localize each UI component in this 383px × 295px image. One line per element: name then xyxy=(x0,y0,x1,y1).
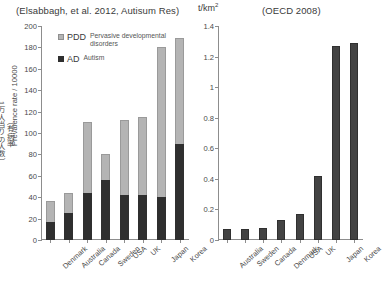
legend-swatch-ad-icon xyxy=(58,56,64,62)
bar-segment-ad xyxy=(120,195,129,240)
bar-segment-ad xyxy=(157,197,166,240)
bar xyxy=(314,176,322,240)
bar xyxy=(223,229,231,240)
y-tick-label: 0.8 xyxy=(203,113,214,122)
y-tick-label: 0 xyxy=(33,236,37,245)
y-tick xyxy=(215,148,219,149)
legend-item-pdd: PDD Pervasive developmental disorders xyxy=(58,32,188,48)
left-chart-title: (Elsabbagh, et al. 2012, Autisum Res) xyxy=(16,5,179,16)
left-y-axis-label-japanese: （有病率 1万人当りの人数） xyxy=(0,24,13,240)
bar-fill xyxy=(314,176,322,240)
y-tick xyxy=(215,57,219,58)
y-tick-label: 200 xyxy=(24,22,37,31)
right-x-axis-line xyxy=(218,239,363,240)
y-tick-label: 120 xyxy=(24,107,37,116)
bar-fill xyxy=(277,220,285,240)
y-tick xyxy=(215,87,219,88)
right-chart-panel: t/km2 (OECD 2008) 00.20.40.60.811.21.4Au… xyxy=(196,0,376,295)
legend: PDD Pervasive developmental disorders AD… xyxy=(58,32,188,70)
bar-segment-pdd xyxy=(120,120,129,195)
bar-segment-ad xyxy=(138,195,147,240)
y-tick xyxy=(215,240,219,241)
y-tick-label: 20 xyxy=(29,214,37,223)
bar-segment-ad xyxy=(64,213,73,240)
bar-segment-pdd xyxy=(64,193,73,213)
bar xyxy=(64,193,73,240)
y-tick-label: 0.4 xyxy=(203,174,214,183)
left-x-axis-line xyxy=(41,239,189,240)
x-category-label: Japan xyxy=(344,244,365,264)
bar xyxy=(296,214,304,240)
y-tick xyxy=(38,47,42,48)
bar xyxy=(332,46,340,240)
bar xyxy=(83,122,92,240)
legend-key-ad: AD xyxy=(67,54,80,64)
y-tick-label: 100 xyxy=(24,129,37,138)
y-tick xyxy=(215,118,219,119)
y-tick-label: 1 xyxy=(210,83,214,92)
y-axis-label-ja-line1: （有病率 xyxy=(5,24,13,240)
y-tick xyxy=(38,154,42,155)
x-category-label: UK xyxy=(148,244,162,258)
y-tick xyxy=(38,26,42,27)
y-tick-label: 80 xyxy=(29,150,37,159)
right-y-axis-line xyxy=(218,26,219,240)
left-chart-panel: (Elsabbagh, et al. 2012, Autisum Res) Pr… xyxy=(0,0,196,295)
y-tick xyxy=(38,112,42,113)
bar-fill xyxy=(296,214,304,240)
legend-key-pdd: PDD xyxy=(67,32,86,42)
bar xyxy=(101,154,110,240)
bar-fill xyxy=(332,46,340,240)
y-tick xyxy=(215,209,219,210)
x-category-label: UK xyxy=(323,244,337,258)
y-tick-label: 180 xyxy=(24,43,37,52)
bar-fill xyxy=(350,43,358,240)
y-tick-label: 0.2 xyxy=(203,205,214,214)
y-tick xyxy=(215,179,219,180)
bar-segment-ad xyxy=(175,144,184,240)
y-tick-label: 140 xyxy=(24,86,37,95)
y-tick-label: 1.4 xyxy=(203,22,214,31)
right-chart-title: (OECD 2008) xyxy=(262,5,321,16)
bar xyxy=(259,228,267,240)
bar xyxy=(241,229,249,240)
y-tick xyxy=(215,26,219,27)
legend-swatch-pdd-icon xyxy=(58,34,64,40)
right-y-axis-unit: t/km2 xyxy=(198,2,218,13)
bar xyxy=(277,220,285,240)
y-tick-label: 60 xyxy=(29,171,37,180)
y-tick-label: 0.6 xyxy=(203,144,214,153)
bar-segment-pdd xyxy=(46,201,55,221)
x-category-label: Japan xyxy=(169,244,190,264)
bar xyxy=(350,43,358,240)
y-tick xyxy=(38,240,42,241)
y-axis-label-ja-line2: 1万人当りの人数） xyxy=(0,24,5,240)
bar xyxy=(157,47,166,240)
legend-item-ad: AD Autism xyxy=(58,54,188,64)
bar xyxy=(120,120,129,240)
y-tick xyxy=(38,197,42,198)
legend-desc-pdd: Pervasive developmental disorders xyxy=(90,32,176,48)
bar-segment-pdd xyxy=(83,122,92,193)
bar xyxy=(138,117,147,240)
legend-desc-ad: Autism xyxy=(84,54,105,62)
y-tick xyxy=(38,90,42,91)
y-tick-label: 40 xyxy=(29,193,37,202)
y-tick xyxy=(38,176,42,177)
y-tick xyxy=(38,133,42,134)
bar-fill xyxy=(223,229,231,240)
bar-segment-ad xyxy=(101,180,110,240)
bar-fill xyxy=(259,228,267,240)
y-tick-label: 0 xyxy=(210,236,214,245)
y-tick-label: 1.2 xyxy=(203,52,214,61)
y-tick xyxy=(38,219,42,220)
bar-segment-ad xyxy=(83,193,92,240)
bar-segment-pdd xyxy=(101,154,110,180)
bar-fill xyxy=(241,229,249,240)
bar-segment-pdd xyxy=(138,117,147,195)
x-category-label: Korea xyxy=(362,244,383,264)
bar-segment-ad xyxy=(46,222,55,240)
bar xyxy=(46,201,55,240)
y-tick-label: 160 xyxy=(24,64,37,73)
y-tick xyxy=(38,69,42,70)
